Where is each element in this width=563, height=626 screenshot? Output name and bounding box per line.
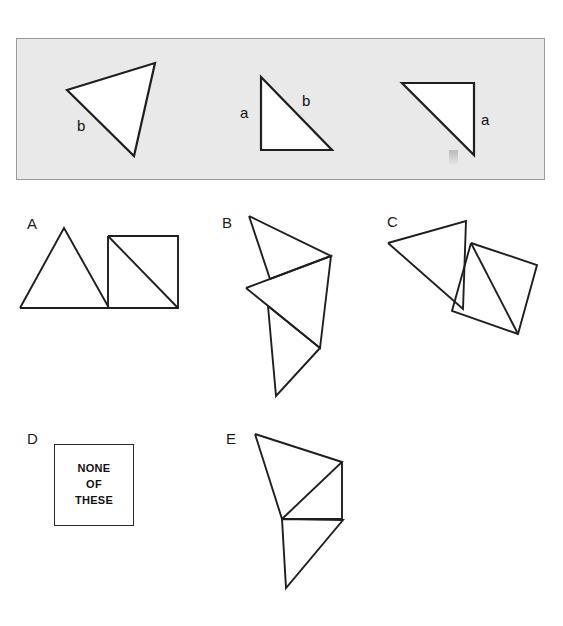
option-e-path-3 <box>282 519 343 588</box>
option-e-path-1 <box>255 434 342 519</box>
none-of-these-box[interactable]: NONE OF THESE <box>54 444 134 526</box>
option-a-path-3 <box>108 236 178 308</box>
option-b-path-2 <box>246 256 331 348</box>
option-label-c[interactable]: C <box>387 214 398 229</box>
option-b-path-3 <box>268 306 320 396</box>
shape-line-art <box>0 0 563 626</box>
side-label-a: a <box>240 105 248 120</box>
side-label-b: b <box>302 93 310 108</box>
option-label-e[interactable]: E <box>226 431 236 446</box>
option-label-a[interactable]: A <box>27 216 37 231</box>
none-line-3: THESE <box>75 493 113 509</box>
option-label-b[interactable]: B <box>222 215 232 230</box>
question-canvas: baba ABCDE NONE OF THESE <box>0 0 563 626</box>
option-c-path-1 <box>388 221 466 309</box>
triangle-right-legs-top <box>402 83 474 155</box>
option-b-path-1 <box>249 216 331 279</box>
none-line-2: OF <box>86 477 102 493</box>
triangle-scalene-tilted <box>67 63 155 156</box>
triangle-right-legs-left <box>261 77 332 150</box>
side-label-a: a <box>481 112 489 127</box>
side-label-b: b <box>77 118 85 133</box>
none-line-1: NONE <box>78 461 111 477</box>
option-label-d[interactable]: D <box>27 431 38 446</box>
option-a-path-1 <box>20 228 109 308</box>
